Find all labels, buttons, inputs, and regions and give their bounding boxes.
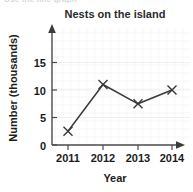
x-tick-label-2013: 2013 xyxy=(126,152,150,164)
y-axis-tick-labels: 0 5 10 15 xyxy=(34,57,46,152)
cropped-header-text: Use the line graph xyxy=(4,0,77,3)
data-series xyxy=(64,80,177,136)
x-axis-title: Year xyxy=(103,172,127,184)
series-line-nests xyxy=(68,85,172,132)
x-axis-tick-labels: 2011 2012 2013 2014 xyxy=(56,152,185,164)
y-tick-label-0: 0 xyxy=(40,140,46,152)
x-axis xyxy=(52,141,185,150)
chart-canvas: Nests on the island 0 5 10 15 Number (th… xyxy=(0,0,193,192)
y-axis xyxy=(48,24,57,145)
x-axis-arrow-icon xyxy=(176,141,185,149)
y-axis-arrow-icon xyxy=(48,24,56,33)
x-tick-label-2012: 2012 xyxy=(91,152,115,164)
chart-title: Nests on the island xyxy=(65,8,166,20)
y-axis-title: Number (thousands) xyxy=(7,34,19,142)
y-tick-label-15: 15 xyxy=(34,57,46,69)
y-tick-label-10: 10 xyxy=(34,85,46,97)
line-chart: Use the line graph xyxy=(0,0,193,192)
y-tick-label-5: 5 xyxy=(40,112,46,124)
x-tick-label-2011: 2011 xyxy=(56,152,80,164)
x-tick-label-2014: 2014 xyxy=(160,152,185,164)
